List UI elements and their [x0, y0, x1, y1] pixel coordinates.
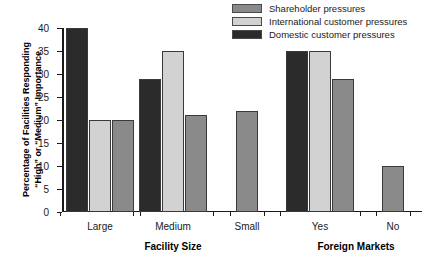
y-tick-label: 15 — [38, 138, 49, 149]
bar — [89, 120, 111, 212]
plot-area: 0510152025303540 — [62, 28, 422, 212]
bar — [309, 51, 331, 212]
y-tick-label: 30 — [38, 69, 49, 80]
x-tick — [133, 212, 134, 216]
bar — [286, 51, 308, 212]
bar — [185, 115, 207, 212]
y-tick: 10 — [57, 166, 62, 167]
x-group-label-large: Large — [87, 221, 113, 232]
y-axis-line — [62, 28, 64, 212]
x-tick — [213, 212, 214, 216]
bar — [66, 28, 88, 212]
y-tick-label: 5 — [43, 184, 49, 195]
legend-swatch-international — [232, 17, 262, 26]
x-tick — [140, 212, 141, 216]
x-tick — [60, 212, 61, 216]
x-tick — [376, 212, 377, 216]
bar — [112, 120, 134, 212]
bar — [332, 79, 354, 212]
bar — [139, 79, 161, 212]
y-tick: 30 — [57, 74, 62, 75]
legend-item-international: International customer pressures — [232, 16, 407, 27]
y-tick: 20 — [57, 120, 62, 121]
x-tick — [410, 212, 411, 216]
y-tick-label: 0 — [43, 207, 49, 218]
x-group-label-no: No — [387, 221, 400, 232]
bar — [236, 111, 258, 212]
bar — [382, 166, 404, 212]
legend-label-shareholder: Shareholder pressures — [269, 3, 365, 14]
legend-swatch-shareholder — [232, 4, 262, 13]
y-tick-label: 10 — [38, 161, 49, 172]
legend-label-international: International customer pressures — [269, 16, 407, 27]
axis-section-title-facility-size: Facility Size — [144, 241, 201, 252]
y-tick: 15 — [57, 143, 62, 144]
y-tick: 35 — [57, 51, 62, 52]
x-group-label-small: Small — [234, 221, 259, 232]
y-tick-label: 35 — [38, 46, 49, 57]
x-tick — [230, 212, 231, 216]
bar-chart: Shareholder pressures International cust… — [0, 0, 434, 267]
y-tick: 5 — [57, 189, 62, 190]
x-group-label-medium: Medium — [155, 221, 191, 232]
y-axis-title-line1: Percentage of Facilities Responding — [21, 20, 33, 220]
axis-section-title-foreign-markets: Foreign Markets — [317, 241, 394, 252]
y-tick: 40 — [57, 28, 62, 29]
x-tick — [264, 212, 265, 216]
bar — [162, 51, 184, 212]
x-group-label-yes: Yes — [312, 221, 328, 232]
x-tick — [360, 212, 361, 216]
x-tick — [280, 212, 281, 216]
y-tick: 25 — [57, 97, 62, 98]
y-tick-label: 40 — [38, 23, 49, 34]
y-tick-label: 25 — [38, 92, 49, 103]
y-tick-label: 20 — [38, 115, 49, 126]
legend-item-shareholder: Shareholder pressures — [232, 3, 407, 14]
